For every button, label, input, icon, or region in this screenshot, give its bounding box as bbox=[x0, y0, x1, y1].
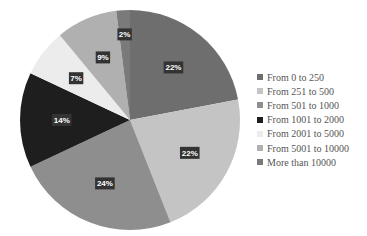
legend-label: From 5001 to 10000 bbox=[267, 143, 349, 154]
legend-swatch bbox=[257, 145, 263, 151]
legend-label: From 501 to 1000 bbox=[267, 100, 339, 111]
legend-label: More than 10000 bbox=[267, 157, 336, 168]
legend-item: From 251 to 500 bbox=[257, 84, 349, 98]
legend-label: From 1001 to 2000 bbox=[267, 114, 344, 125]
legend-label: From 251 to 500 bbox=[267, 86, 334, 97]
data-label: 2% bbox=[119, 30, 131, 39]
legend-swatch bbox=[257, 88, 263, 94]
data-label: 24% bbox=[97, 179, 113, 188]
data-label: 14% bbox=[54, 116, 70, 125]
data-label: 22% bbox=[182, 149, 198, 158]
legend-swatch bbox=[257, 74, 263, 80]
legend-swatch bbox=[257, 159, 263, 165]
legend-item: More than 10000 bbox=[257, 155, 349, 169]
legend-item: From 1001 to 2000 bbox=[257, 113, 349, 127]
legend-label: From 2001 to 5000 bbox=[267, 128, 344, 139]
data-label: 7% bbox=[70, 74, 82, 83]
legend-swatch bbox=[257, 131, 263, 137]
legend-item: From 0 to 250 bbox=[257, 70, 349, 84]
legend-swatch bbox=[257, 102, 263, 108]
legend-item: From 2001 to 5000 bbox=[257, 127, 349, 141]
legend-label: From 0 to 250 bbox=[267, 72, 324, 83]
legend-item: From 501 to 1000 bbox=[257, 98, 349, 112]
data-label: 9% bbox=[97, 53, 109, 62]
data-label: 22% bbox=[165, 63, 181, 72]
legend-swatch bbox=[257, 117, 263, 123]
legend-item: From 5001 to 10000 bbox=[257, 141, 349, 155]
chart-legend: From 0 to 250 From 251 to 500 From 501 t… bbox=[257, 70, 349, 169]
pie-chart: 22%22%24%14%7%9%2% bbox=[0, 0, 260, 236]
